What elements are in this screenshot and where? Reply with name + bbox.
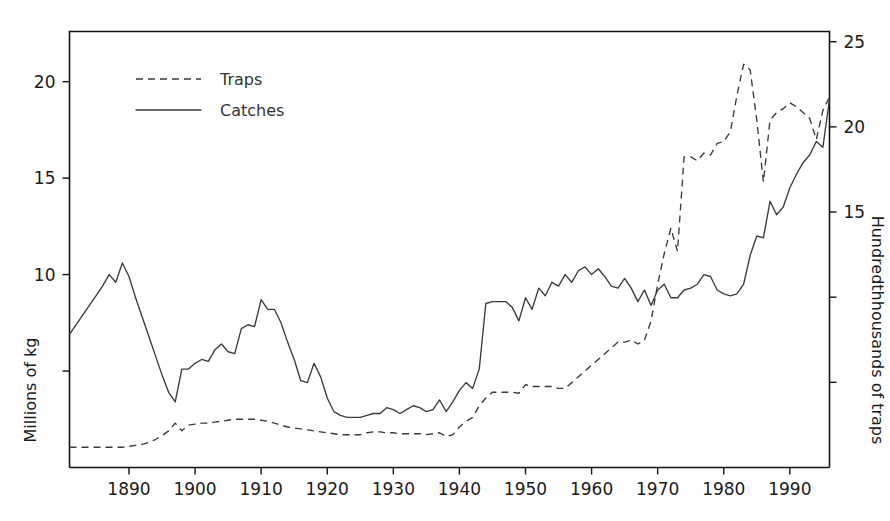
x-tick-label: 1890 <box>107 479 150 499</box>
chart-legend: TrapsCatches <box>136 70 284 120</box>
legend-label-catches: Catches <box>220 101 284 120</box>
x-tick-label: 1930 <box>372 479 415 499</box>
x-tick-label: 1990 <box>768 479 811 499</box>
x-tick-label: 1910 <box>240 479 283 499</box>
y-tick-label: 10 <box>34 265 56 285</box>
series-line-traps <box>70 64 830 447</box>
legend-label-traps: Traps <box>219 70 262 89</box>
chart-figure: 1890190019101920193019401950196019701980… <box>0 0 890 521</box>
x-tick-label: 1900 <box>173 479 216 499</box>
chart-series-group <box>70 64 830 447</box>
y2-tick-label: 20 <box>844 117 866 137</box>
y2-axis-title: Hundredthhousands of traps <box>868 216 887 445</box>
x-tick-label: 1980 <box>702 479 745 499</box>
x-tick-label: 1940 <box>438 479 481 499</box>
y-tick-label: 15 <box>34 168 56 188</box>
y2-tick-label: 25 <box>844 32 866 52</box>
y2-tick-label: 15 <box>844 202 866 222</box>
x-tick-label: 1950 <box>504 479 547 499</box>
plot-frame <box>70 32 830 468</box>
x-tick-label: 1920 <box>306 479 349 499</box>
chart-svg: 1890190019101920193019401950196019701980… <box>0 0 890 521</box>
chart-axis-titles: Millions of kgHundredthhousands of traps <box>21 216 887 445</box>
x-tick-label: 1960 <box>570 479 613 499</box>
y-axis-title: Millions of kg <box>21 338 40 443</box>
series-line-catches <box>70 99 830 417</box>
chart-axes: 1890190019101920193019401950196019701980… <box>34 32 865 499</box>
x-tick-label: 1970 <box>636 479 679 499</box>
y-tick-label: 20 <box>34 72 56 92</box>
